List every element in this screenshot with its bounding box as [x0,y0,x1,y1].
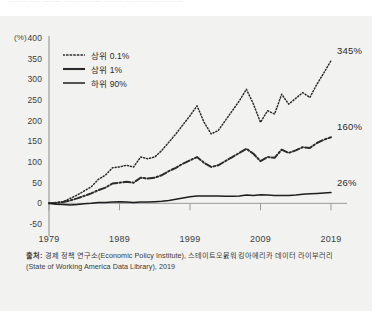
source-note: 출처: 경제 정책 연구소(Economic Policy Institute)… [26,250,350,272]
y-axis-unit-label: (%) [14,33,27,42]
source-text: 경제 정책 연구소(Economic Policy Institute), 스테… [26,251,333,271]
legend-label-top-0-1: 상위 0.1% [91,49,129,61]
x-axis-tick-label: 2019 [311,234,351,244]
y-axis-tick-label: 300 [8,74,42,84]
y-axis-tick-label: 100 [8,157,42,167]
y-axis-tick-label: -50 [8,219,42,229]
y-axis-tick-label: 250 [8,95,42,105]
line-chart-plot [0,16,372,264]
top-crop-ghost-text: —— — —— ———— —— —————— [8,0,182,6]
dotted-line-key-icon [63,51,85,59]
figure-panel: 상위 0.1% 상위 1% 하위 90% 출처: 경제 정책 연구소(Econo… [0,16,372,311]
series-end-value-label: 26% [337,177,357,188]
y-axis-tick-label: 0 [8,198,42,208]
legend-label-bottom-90: 하위 90% [91,77,127,89]
series-end-value-label: 160% [337,121,362,132]
x-axis-tick-label: 2009 [241,234,281,244]
legend-item-top-1: 상위 1% [63,63,129,74]
legend-label-top-1: 상위 1% [91,63,122,75]
dashdot-line-key-icon [63,65,85,73]
chart-figure [0,16,372,264]
chart-legend: 상위 0.1% 상위 1% 하위 90% [63,49,129,91]
solid-line-key-icon [63,79,85,87]
source-prefix: 출처: [26,251,43,260]
series-end-value-label: 345% [337,45,362,56]
x-axis-tick-label: 1979 [29,234,69,244]
x-axis-tick-label: 1989 [100,234,140,244]
page-top-crop-strip: —— — —— ———— —— —————— [0,0,372,14]
y-axis-tick-label: 50 [8,178,42,188]
x-axis-tick-label: 1999 [170,234,210,244]
series-line [49,137,331,203]
y-axis-tick-label: 150 [8,136,42,146]
y-axis-tick-label: 350 [8,54,42,64]
legend-item-bottom-90: 하위 90% [63,77,129,88]
legend-item-top-0-1: 상위 0.1% [63,49,129,60]
y-axis-tick-label: 200 [8,116,42,126]
